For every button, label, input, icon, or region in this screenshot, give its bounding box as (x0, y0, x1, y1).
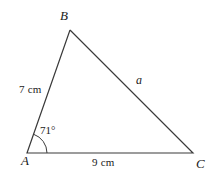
vertex-label-c: C (196, 157, 205, 170)
angle-measure-label-a: 71° (40, 125, 55, 136)
angle-arc-A (34, 134, 48, 153)
side-length-label-ab: 7 cm (19, 84, 42, 95)
vertex-label-a: A (21, 154, 29, 167)
side-length-label-bc: a (136, 74, 142, 86)
vertex-label-b: B (60, 9, 68, 22)
side-length-label-ac: 9 cm (92, 157, 115, 168)
triangle-diagram: B A C 7 cm 9 cm a 71° (0, 0, 214, 178)
